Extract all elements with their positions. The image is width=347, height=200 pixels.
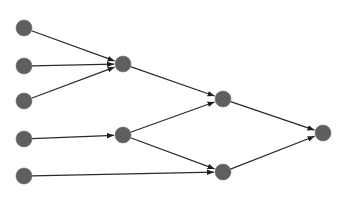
graph-node-a5 [16,168,32,184]
directed-graph-diagram [0,0,347,200]
graph-node-a3 [16,93,32,109]
edge-c1-to-d1 [231,102,315,131]
edge-b2-to-c1 [131,102,215,132]
edge-a4-to-b2 [32,135,114,138]
node-layer [16,20,331,184]
graph-node-a4 [16,131,32,147]
edge-c2-to-d1 [230,136,314,169]
graph-node-a2 [16,58,32,74]
graph-node-b1 [115,56,131,72]
graph-node-b2 [115,127,131,143]
edge-layer [31,31,314,176]
edge-a2-to-b1 [32,64,114,66]
edge-a1-to-b1 [32,31,115,61]
edge-b1-to-c1 [131,67,215,96]
graph-node-c1 [215,91,231,107]
graph-node-d1 [315,125,331,141]
graph-node-a1 [16,20,32,36]
graph-node-c2 [215,164,231,180]
edge-b2-to-c2 [131,138,215,169]
edge-a5-to-c2 [32,172,214,176]
edge-a3-to-b1 [31,67,114,98]
